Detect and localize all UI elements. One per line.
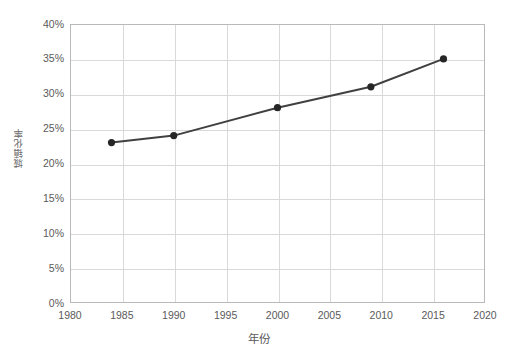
y-axis-tick-label: 5%	[0, 263, 64, 274]
gridline-horizontal	[71, 165, 484, 166]
gridline-horizontal	[71, 95, 484, 96]
gridline-vertical	[434, 25, 435, 302]
y-axis-tick-labels: 0%5%10%15%20%25%30%35%40%	[0, 0, 64, 357]
y-axis-tick-label: 40%	[0, 19, 64, 30]
gridline-vertical	[330, 25, 331, 302]
y-axis-tick-label: 30%	[0, 88, 64, 99]
x-axis-tick-label: 2020	[455, 310, 515, 321]
y-axis-tick-label: 10%	[0, 228, 64, 239]
gridline-vertical	[175, 25, 176, 302]
y-axis-title: 城镇化率	[14, 128, 28, 168]
gridline-horizontal	[71, 130, 484, 131]
y-axis-tick-label: 15%	[0, 193, 64, 204]
y-axis-tick-label: 35%	[0, 53, 64, 64]
plot-area	[70, 24, 485, 303]
y-axis-tick-label: 25%	[0, 123, 64, 134]
y-axis-tick-label: 20%	[0, 158, 64, 169]
gridline-vertical	[123, 25, 124, 302]
gridline-horizontal	[71, 60, 484, 61]
line-chart: 0%5%10%15%20%25%30%35%40% 19801985199019…	[0, 0, 518, 357]
gridline-horizontal	[71, 199, 484, 200]
gridline-horizontal	[71, 234, 484, 235]
gridline-vertical	[279, 25, 280, 302]
y-axis-tick-label: 0%	[0, 298, 64, 309]
gridline-horizontal	[71, 269, 484, 270]
x-axis-title: 年份	[0, 330, 518, 346]
gridline-vertical	[227, 25, 228, 302]
gridline-vertical	[382, 25, 383, 302]
